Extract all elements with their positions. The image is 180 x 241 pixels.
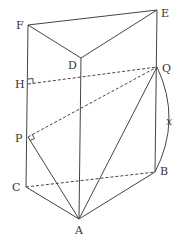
label-B: B (160, 165, 168, 178)
right-angle-P-icon (30, 134, 35, 141)
edge-EB (155, 10, 157, 172)
label-C: C (12, 181, 20, 194)
segment-HQ (28, 67, 157, 84)
label-D: D (68, 59, 77, 72)
label-E: E (161, 7, 169, 20)
edge-DA (79, 58, 81, 219)
segment-AP (28, 137, 79, 219)
segment-PQ (28, 67, 157, 137)
label-P: P (15, 132, 23, 145)
label-A: A (74, 224, 84, 237)
edge-FC (26, 25, 28, 187)
label-x: x (166, 115, 173, 128)
segment-AQ (79, 67, 157, 219)
label-F: F (16, 19, 24, 32)
edge-CB-hidden (26, 172, 155, 187)
label-H: H (15, 78, 25, 91)
right-angle-H-icon (28, 79, 33, 84)
prism-diagram: F D E H Q P C B A x (0, 0, 180, 241)
edge-AB (79, 172, 155, 219)
edge-CA (26, 187, 79, 219)
edge-FD (28, 25, 81, 58)
label-Q: Q (162, 62, 171, 75)
